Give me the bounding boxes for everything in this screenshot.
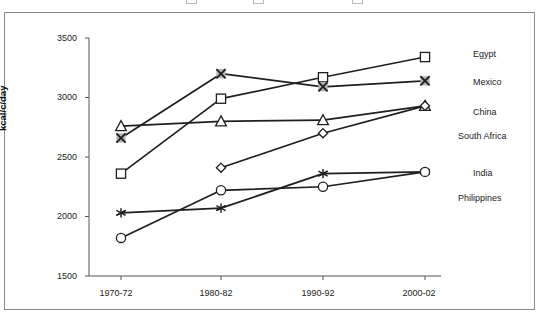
- cropped-top-artifact: [0, 0, 540, 11]
- series-south-africa: [216, 101, 429, 172]
- chart-screenshot: kcal/c/day 3500 3000 2500 2000 1500 1970…: [0, 0, 540, 319]
- figure-frame: kcal/c/day 3500 3000 2500 2000 1500 1970…: [4, 12, 535, 310]
- series-philippines: [116, 167, 429, 242]
- series-china: [116, 100, 431, 130]
- ghost-marker-a: [186, 0, 197, 4]
- ghost-marker-c: [352, 0, 363, 4]
- chart-plot: [5, 13, 536, 311]
- series-india: [116, 167, 429, 217]
- ghost-marker-b: [253, 0, 264, 4]
- series-mexico: [116, 69, 429, 142]
- series-egypt: [116, 52, 429, 178]
